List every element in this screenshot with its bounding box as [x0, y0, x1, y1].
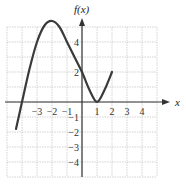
svg-text:1: 1: [95, 106, 100, 117]
svg-text:−4: −4: [68, 157, 79, 168]
svg-text:−1: −1: [68, 112, 79, 123]
svg-text:−2: −2: [47, 106, 58, 117]
svg-text:−3: −3: [32, 106, 43, 117]
function-graph: f(x) x −3−2−1123442−1−2−3−4: [0, 0, 186, 185]
svg-text:3: 3: [125, 106, 130, 117]
y-axis-arrow-icon: [79, 18, 85, 26]
x-axis-arrow-icon: [162, 99, 170, 105]
x-axis-label: x: [174, 96, 180, 108]
svg-text:−3: −3: [68, 142, 79, 153]
svg-text:−2: −2: [68, 127, 79, 138]
svg-text:2: 2: [110, 106, 115, 117]
y-axis-label: f(x): [74, 3, 90, 16]
svg-text:4: 4: [74, 37, 79, 48]
svg-text:2: 2: [74, 67, 79, 78]
svg-text:4: 4: [140, 106, 145, 117]
